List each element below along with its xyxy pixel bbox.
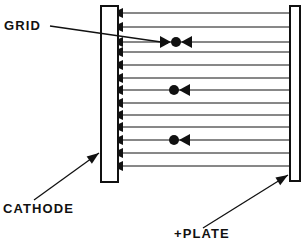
field-line <box>112 8 290 18</box>
electron-arrowhead-icon <box>179 84 190 96</box>
electron-arrowhead-icon <box>179 134 190 146</box>
field-line <box>112 122 290 132</box>
leader-shaft <box>34 153 99 200</box>
electron-3 <box>169 134 190 146</box>
field-line <box>112 85 290 95</box>
field-lines-group <box>112 8 290 171</box>
cathode-label: CATHODE <box>3 201 74 216</box>
electron-2 <box>169 84 190 96</box>
electron-arrowhead-icon <box>181 36 192 48</box>
field-line <box>112 148 290 158</box>
plate-label: +PLATE <box>174 226 230 241</box>
leader-shaft <box>203 175 288 228</box>
field-line <box>112 161 290 171</box>
vacuum-tube-diagram: GRID CATHODE +PLATE <box>0 0 304 243</box>
leader-arrowhead-icon <box>87 149 102 163</box>
diagram-canvas: GRID CATHODE +PLATE <box>0 0 304 243</box>
electron-dot-icon <box>169 85 179 95</box>
electrodes-group <box>101 6 300 182</box>
field-line <box>112 135 290 145</box>
plate-leader <box>203 171 290 228</box>
electron-dot-icon <box>171 37 181 47</box>
field-line <box>112 60 290 70</box>
field-line <box>112 110 290 120</box>
cathode-bar <box>101 6 118 182</box>
field-line <box>112 73 290 83</box>
electron-dot-icon <box>169 135 179 145</box>
leader-arrowhead-icon <box>275 171 290 185</box>
field-line <box>112 98 290 108</box>
grid-label: GRID <box>4 18 41 33</box>
cathode-leader <box>34 149 102 200</box>
field-line <box>112 47 290 57</box>
field-line <box>112 22 290 32</box>
plate-bar <box>290 6 300 181</box>
